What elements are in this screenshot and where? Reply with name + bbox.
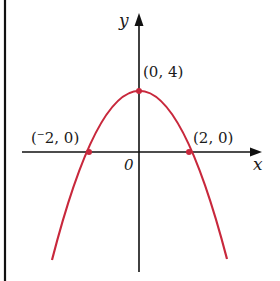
vertex-point — [136, 88, 142, 94]
y-axis-arrow-icon — [135, 13, 144, 26]
left-root-point — [86, 149, 92, 155]
vertex-label: (0, 4) — [143, 65, 183, 80]
y-axis-label: y — [119, 12, 129, 29]
parabola-diagram: y x 0 (0, 4) (⁻2, 0) (2, 0) — [0, 0, 280, 281]
right-root-label: (2, 0) — [193, 131, 233, 146]
x-axis-label: x — [253, 156, 263, 173]
left-root-label: (⁻2, 0) — [31, 131, 79, 146]
right-root-point — [186, 149, 192, 155]
origin-label: 0 — [124, 158, 134, 173]
